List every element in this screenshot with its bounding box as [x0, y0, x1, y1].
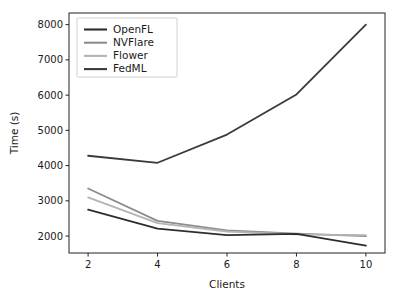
x-tick-label: 8 [293, 259, 299, 270]
line-chart: 2000300040005000600070008000 246810 Clie… [0, 0, 412, 299]
x-axis-ticks [88, 253, 366, 257]
y-axis-tick-labels: 2000300040005000600070008000 [38, 19, 63, 241]
x-tick-label: 4 [154, 259, 160, 270]
y-tick-label: 8000 [38, 19, 63, 30]
legend-label-flower: Flower [113, 49, 148, 61]
y-tick-label: 4000 [38, 160, 63, 171]
legend-label-openfl: OpenFL [113, 23, 153, 35]
legend-label-fedml: FedML [113, 62, 147, 74]
y-tick-label: 7000 [38, 54, 63, 65]
x-axis-tick-labels: 246810 [85, 259, 372, 270]
x-axis-title: Clients [209, 278, 245, 290]
y-axis-title: Time (s) [8, 112, 20, 156]
x-tick-label: 6 [224, 259, 230, 270]
y-tick-label: 3000 [38, 195, 63, 206]
legend-label-nvflare: NVFlare [113, 36, 154, 48]
chart-figure: 2000300040005000600070008000 246810 Clie… [0, 0, 412, 299]
y-axis-ticks [66, 25, 70, 236]
y-tick-label: 5000 [38, 125, 63, 136]
y-tick-label: 6000 [38, 90, 63, 101]
x-tick-label: 10 [360, 259, 373, 270]
x-tick-label: 2 [85, 259, 91, 270]
chart-legend: OpenFLNVFlareFlowerFedML [77, 18, 177, 77]
y-tick-label: 2000 [38, 231, 63, 242]
